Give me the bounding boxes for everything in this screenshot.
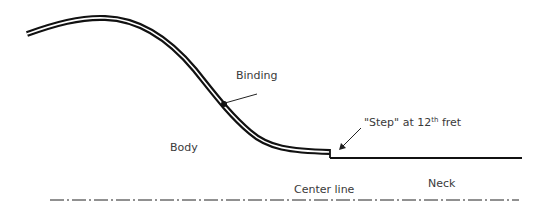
binding-dot (221, 101, 227, 107)
center-line-label: Center line (294, 184, 354, 195)
binding-label: Binding (236, 70, 278, 81)
step-label-suffix: fret (438, 116, 461, 129)
body-outline-outer (27, 18, 330, 152)
body-outline (27, 18, 330, 152)
step-label: "Step" at 12th fret (364, 117, 461, 128)
diagram-drawing (0, 0, 547, 211)
binding-diagram: Binding Body "Step" at 12th fret Center … (0, 0, 547, 211)
body-label: Body (170, 142, 198, 153)
step-arrow-line (342, 128, 361, 147)
body-outline-inner-gap (27, 18, 330, 152)
neck-label: Neck (428, 178, 455, 189)
binding-leader-line (225, 94, 257, 103)
step-label-prefix: "Step" at 12 (364, 116, 431, 129)
